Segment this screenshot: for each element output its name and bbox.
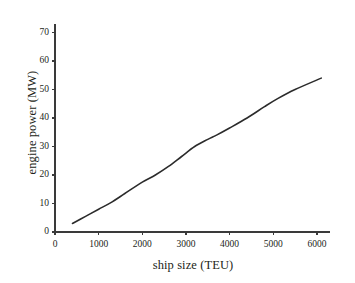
y-tick-label: 30 xyxy=(25,141,49,151)
y-tick-label: 0 xyxy=(25,226,49,236)
y-tick-label: 70 xyxy=(25,27,49,37)
axes-group xyxy=(52,24,330,235)
x-tick-label: 5000 xyxy=(253,239,293,249)
data-line-1 xyxy=(72,78,321,223)
x-tick-label: 4000 xyxy=(210,239,250,249)
data-series-group xyxy=(72,78,321,223)
x-tick-label: 1000 xyxy=(79,239,119,249)
x-tick-label: 6000 xyxy=(297,239,337,249)
y-tick-label: 10 xyxy=(25,198,49,208)
x-tick-label: 3000 xyxy=(166,239,206,249)
y-tick-label: 20 xyxy=(25,169,49,179)
y-tick-label: 60 xyxy=(25,55,49,65)
y-tick-label: 40 xyxy=(25,112,49,122)
x-tick-label: 0 xyxy=(35,239,75,249)
y-tick-label: 50 xyxy=(25,84,49,94)
x-tick-label: 2000 xyxy=(122,239,162,249)
x-axis-title: ship size (TEU) xyxy=(55,258,331,273)
chart-figure: engine power (MW) ship size (TEU) 010203… xyxy=(0,0,355,283)
